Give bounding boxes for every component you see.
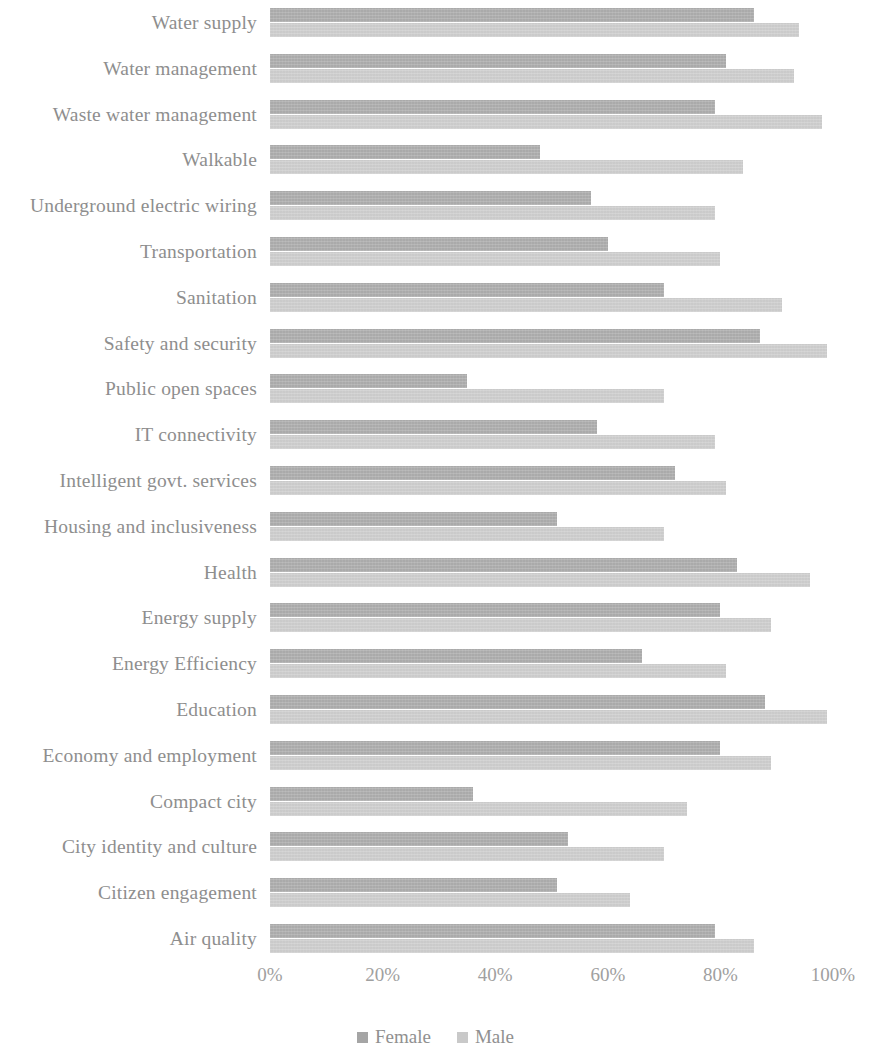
chart-row: Health <box>0 554 871 600</box>
bar-male <box>270 847 664 861</box>
chart-row: Water management <box>0 50 871 96</box>
chart-legend: FemaleMale <box>0 1022 871 1052</box>
bar-group <box>270 878 871 908</box>
bar-group <box>270 100 871 130</box>
category-label: Health <box>0 560 257 586</box>
bar-female <box>270 558 737 572</box>
category-label: Citizen engagement <box>0 880 257 906</box>
x-axis-tick-label: 0% <box>257 962 282 988</box>
bar-group <box>270 649 871 679</box>
chart-row: Housing and inclusiveness <box>0 508 871 554</box>
legend-item[interactable]: Female <box>357 1025 431 1049</box>
category-label: Intelligent govt. services <box>0 468 257 494</box>
chart-row: Transportation <box>0 233 871 279</box>
category-label: IT connectivity <box>0 422 257 448</box>
bar-group <box>270 832 871 862</box>
chart-row: Education <box>0 691 871 737</box>
bar-female <box>270 420 597 434</box>
bar-group <box>270 787 871 817</box>
bar-male <box>270 298 782 312</box>
bar-female <box>270 100 715 114</box>
square-marker-icon <box>457 1032 468 1043</box>
bar-group <box>270 145 871 175</box>
x-axis-tick-label: 100% <box>811 962 855 988</box>
bar-male <box>270 710 827 724</box>
bar-female <box>270 145 540 159</box>
chart-row: Intelligent govt. services <box>0 462 871 508</box>
bar-male <box>270 618 771 632</box>
chart-row: City identity and culture <box>0 828 871 874</box>
bar-group <box>270 237 871 267</box>
bar-male <box>270 23 799 37</box>
bar-female <box>270 695 765 709</box>
bar-male <box>270 115 822 129</box>
category-label: Energy supply <box>0 605 257 631</box>
bar-male <box>270 573 810 587</box>
category-label: Education <box>0 697 257 723</box>
chart-row: Underground electric wiring <box>0 187 871 233</box>
bar-group <box>270 374 871 404</box>
bar-female <box>270 191 591 205</box>
bar-male <box>270 802 687 816</box>
bar-group <box>270 466 871 496</box>
bar-group <box>270 329 871 359</box>
bar-group <box>270 695 871 725</box>
bar-group <box>270 603 871 633</box>
bar-group <box>270 191 871 221</box>
bar-group <box>270 924 871 954</box>
legend-label: Female <box>375 1025 431 1049</box>
bar-group <box>270 283 871 313</box>
category-label: Air quality <box>0 926 257 952</box>
bar-male <box>270 344 827 358</box>
category-label: Economy and employment <box>0 743 257 769</box>
bar-male <box>270 939 754 953</box>
legend-item[interactable]: Male <box>457 1025 514 1049</box>
bar-male <box>270 527 664 541</box>
chart-row: Waste water management <box>0 96 871 142</box>
bar-male <box>270 481 726 495</box>
category-label: Waste water management <box>0 102 257 128</box>
chart-row: Compact city <box>0 783 871 829</box>
category-label: Energy Efficiency <box>0 651 257 677</box>
bar-male <box>270 756 771 770</box>
category-label: Underground electric wiring <box>0 193 257 219</box>
bar-female <box>270 329 760 343</box>
bar-female <box>270 832 568 846</box>
bar-female <box>270 878 557 892</box>
bar-group <box>270 741 871 771</box>
chart-row: IT connectivity <box>0 416 871 462</box>
bar-female <box>270 603 720 617</box>
chart-row: Safety and security <box>0 325 871 371</box>
bar-female <box>270 466 675 480</box>
chart-row: Citizen engagement <box>0 874 871 920</box>
square-marker-icon <box>357 1032 368 1043</box>
horizontal-bar-chart: Water supplyWater managementWaste water … <box>0 0 871 1055</box>
category-label: Safety and security <box>0 331 257 357</box>
bar-group <box>270 558 871 588</box>
bar-male <box>270 252 720 266</box>
x-axis: 0%20%40%60%80%100% <box>0 958 871 998</box>
bar-female <box>270 649 642 663</box>
category-label: Sanitation <box>0 285 257 311</box>
plot-area: Water supplyWater managementWaste water … <box>0 0 871 958</box>
chart-row: Walkable <box>0 141 871 187</box>
bar-group <box>270 54 871 84</box>
category-label: Public open spaces <box>0 376 257 402</box>
category-label: Water supply <box>0 10 257 36</box>
category-label: Walkable <box>0 147 257 173</box>
bar-female <box>270 512 557 526</box>
bar-group <box>270 420 871 450</box>
bar-female <box>270 787 473 801</box>
chart-row: Economy and employment <box>0 737 871 783</box>
bar-female <box>270 54 726 68</box>
chart-row: Water supply <box>0 4 871 50</box>
category-label: Compact city <box>0 789 257 815</box>
category-label: Water management <box>0 56 257 82</box>
chart-row: Public open spaces <box>0 370 871 416</box>
bar-female <box>270 237 608 251</box>
category-label: Housing and inclusiveness <box>0 514 257 540</box>
bar-male <box>270 389 664 403</box>
bar-female <box>270 374 467 388</box>
category-label: City identity and culture <box>0 834 257 860</box>
bar-male <box>270 435 715 449</box>
